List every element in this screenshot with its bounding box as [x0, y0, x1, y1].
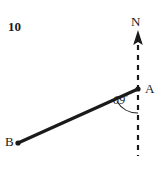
angle-label: 69°	[113, 94, 128, 106]
north-label: N	[131, 15, 140, 28]
bearing-diagram: 10 N A B 69°	[0, 0, 161, 170]
degree-symbol: °	[125, 93, 128, 101]
point-b-label: B	[5, 135, 14, 148]
angle-value: 69	[113, 93, 125, 107]
point-a-marker	[135, 86, 140, 91]
point-a-label: A	[145, 82, 154, 95]
north-arrowhead-icon	[133, 30, 143, 45]
question-number: 10	[8, 20, 21, 33]
point-b-marker	[15, 140, 20, 145]
